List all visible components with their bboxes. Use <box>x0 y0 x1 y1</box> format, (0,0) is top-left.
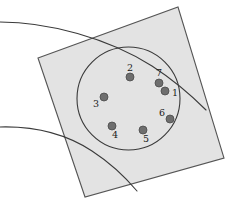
point-marker-1 <box>161 87 169 95</box>
point-marker-3 <box>100 93 108 101</box>
geometry-diagram: 2713645 <box>0 0 236 212</box>
point-label-3: 3 <box>93 98 99 109</box>
point-marker-6 <box>166 115 174 123</box>
point-label-6: 6 <box>159 107 165 118</box>
rotated-square <box>38 7 224 197</box>
point-marker-2 <box>126 73 134 81</box>
point-label-5: 5 <box>143 133 149 144</box>
point-label-2: 2 <box>127 62 133 73</box>
point-label-1: 1 <box>172 87 178 98</box>
point-label-4: 4 <box>112 129 118 140</box>
point-marker-7 <box>155 79 163 87</box>
figure-canvas: 2713645 <box>0 0 236 212</box>
point-label-7: 7 <box>156 67 162 78</box>
